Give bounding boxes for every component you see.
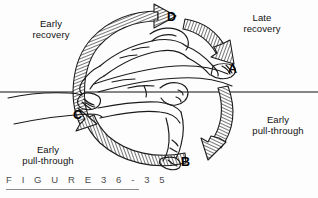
annotation-early-recovery: Early recovery [18, 18, 84, 40]
annotation-early-pull-through-right-line1: Early [240, 114, 316, 125]
annotation-early-pull-through-right-line2: pull-through [240, 125, 316, 136]
annotation-early-pull-through-left-line1: Early [8, 144, 88, 155]
early-pull-through-right-arrow [201, 86, 233, 160]
annotation-early-recovery-line1: Early [18, 18, 84, 29]
phase-label-b: B [181, 155, 190, 169]
phase-label-a: A [228, 62, 237, 76]
phase-label-d: D [167, 10, 176, 24]
early-pull-through-right-arrowhead [201, 136, 226, 160]
figure-page: Early recovery Late recovery Early pull-… [0, 0, 318, 198]
phase-label-c: C [73, 108, 82, 122]
annotation-early-pull-through-right: Early pull-through [240, 114, 316, 136]
annotation-late-recovery-line1: Late [226, 12, 298, 23]
annotation-early-pull-through-left-line2: pull-through [8, 155, 88, 166]
annotation-late-recovery-line2: recovery [226, 23, 298, 34]
figure-caption: F I G U R E 3 6 - 3 5 [6, 174, 168, 185]
annotation-late-recovery: Late recovery [226, 12, 298, 34]
annotation-early-recovery-line2: recovery [18, 29, 84, 40]
figure-caption-rule [6, 189, 139, 190]
annotation-early-pull-through-left: Early pull-through [8, 144, 88, 166]
